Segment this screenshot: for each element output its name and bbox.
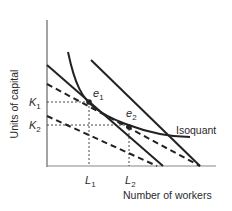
x-axis-title: Number of workers xyxy=(123,189,212,201)
point-e1 xyxy=(86,99,92,105)
label-k1: K1 xyxy=(29,96,41,111)
label-e1: e1 xyxy=(93,87,104,102)
isoquant-label: Isoquant xyxy=(176,124,216,136)
label-l1: L1 xyxy=(85,174,96,189)
isocost-line-dashed-inner xyxy=(47,116,157,166)
point-e2 xyxy=(126,124,132,130)
label-l2: L2 xyxy=(125,174,136,189)
label-k2: K2 xyxy=(29,119,41,134)
y-axis-title: Units of capital xyxy=(8,70,20,139)
label-e2: e2 xyxy=(126,107,137,122)
isoquant-diagram: e1 e2 K1 K2 L1 L2 Isoquant Number of wor… xyxy=(0,0,232,211)
